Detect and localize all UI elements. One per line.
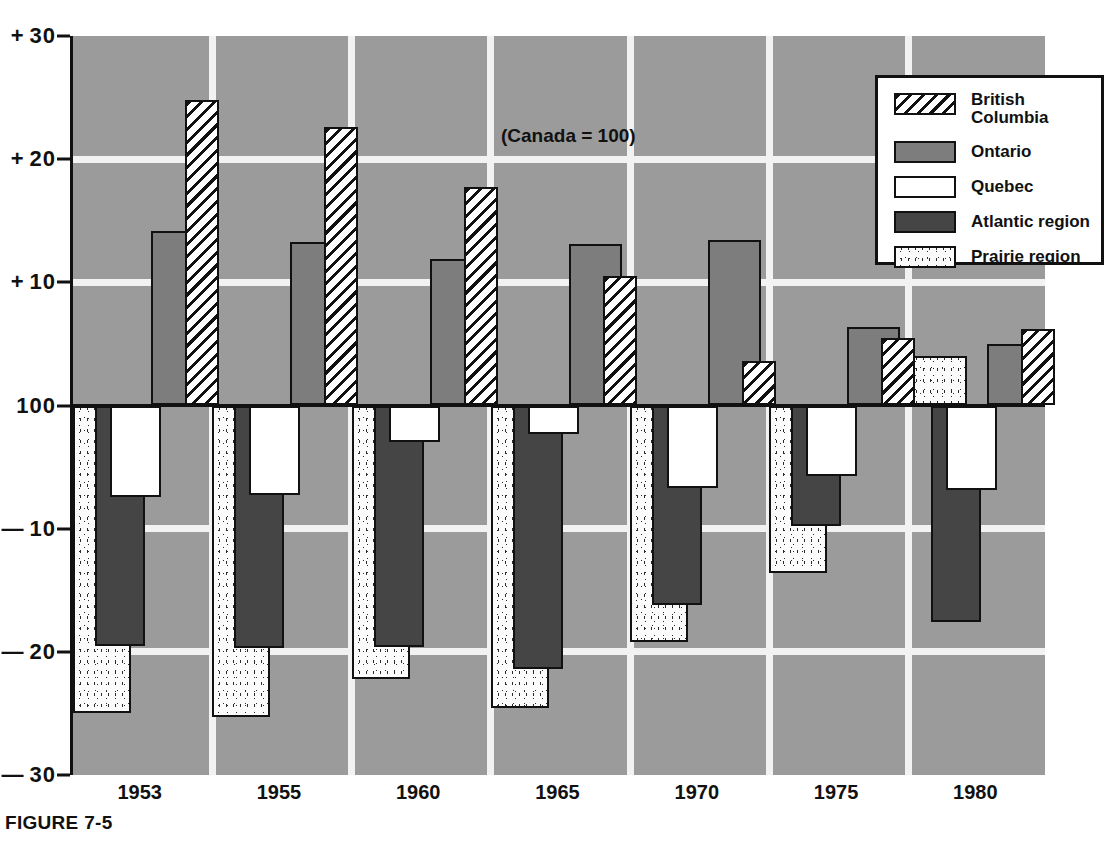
legend-label-quebec: Quebec (971, 178, 1033, 196)
bar-qc-1960 (389, 406, 440, 443)
x-axis-tick-label-1970: 1970 (675, 781, 720, 804)
legend-swatch-ontario (894, 141, 956, 163)
bar-qc-1970 (667, 406, 718, 489)
y-axis-tick-label: +30 (11, 23, 56, 49)
bar-bc-1953 (185, 100, 219, 405)
y-axis-tick-mark (57, 158, 70, 161)
y-axis-tick-mark (57, 35, 70, 38)
bar-qc-1965 (528, 406, 579, 434)
legend-label-atlantic-region: Atlantic region (971, 213, 1090, 231)
y-axis-tick-mark (57, 527, 70, 530)
bar-bc-1960 (464, 187, 498, 405)
y-axis-tick-mark (57, 404, 70, 407)
y-axis-tick-label: +10 (11, 269, 56, 295)
y-axis-tick-mark (57, 281, 70, 284)
bar-at-1965 (513, 406, 563, 670)
bar-bc-1975 (881, 338, 915, 406)
y-axis-tick-mark (57, 774, 70, 777)
y-axis-labels: +30+20+10100—10—20—30 (0, 0, 70, 843)
bar-bc-1955 (324, 127, 358, 405)
legend-swatch-prairie-region (894, 246, 956, 268)
legend-label-prairie-region: Prairie region (971, 248, 1081, 266)
x-axis-tick-label-1955: 1955 (257, 781, 302, 804)
bar-qc-1975 (806, 406, 857, 476)
bar-pr-1980 (909, 356, 967, 405)
legend-swatch-atlantic-region (894, 211, 956, 233)
y-axis-tick-label: —10 (2, 516, 56, 542)
y-axis-tick-mark (57, 650, 70, 653)
figure-caption: FIGURE 7-5 (5, 812, 113, 834)
zero-baseline (73, 404, 1045, 407)
x-axis-tick-label-1965: 1965 (535, 781, 580, 804)
chart-legend: British Columbia Ontario Quebec Atlantic… (875, 75, 1104, 265)
bar-bc-1970 (742, 361, 776, 405)
y-axis-tick-label: 100 (16, 393, 56, 419)
y-axis-tick-label: —30 (2, 762, 56, 788)
legend-item-prairie-region: Prairie region (878, 240, 1101, 273)
x-axis-tick-label-1975: 1975 (814, 781, 859, 804)
legend-item-quebec: Quebec (878, 170, 1101, 203)
x-axis-tick-label-1953: 1953 (117, 781, 162, 804)
bar-bc-1980 (1021, 329, 1055, 405)
legend-label-british-columbia: British Columbia (971, 91, 1048, 127)
bar-qc-1980 (946, 406, 997, 491)
canada-baseline-annotation: (Canada = 100) (501, 125, 636, 147)
legend-swatch-british-columbia (894, 93, 956, 115)
x-axis-tick-label-1980: 1980 (953, 781, 998, 804)
legend-item-british-columbia: British Columbia (878, 91, 1101, 133)
bar-qc-1955 (249, 406, 300, 496)
y-axis-tick-label: —20 (2, 639, 56, 665)
x-axis-tick-label-1960: 1960 (396, 781, 441, 804)
legend-item-ontario: Ontario (878, 135, 1101, 168)
legend-item-atlantic-region: Atlantic region (878, 205, 1101, 238)
plot-area: (Canada = 100) British Columbia Ontario … (70, 36, 1045, 775)
x-axis-labels: 1953195519601965197019751980 (70, 781, 1045, 811)
y-axis-tick-label: +20 (11, 146, 56, 172)
bar-qc-1953 (110, 406, 161, 497)
bar-bc-1965 (603, 276, 637, 405)
legend-label-ontario: Ontario (971, 143, 1031, 161)
legend-swatch-quebec (894, 176, 956, 198)
